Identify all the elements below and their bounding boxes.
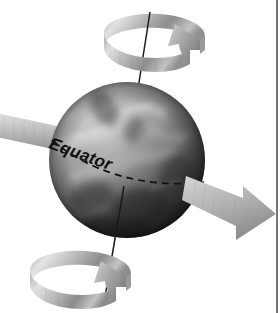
planet-rotation-figure: Equator (0, 0, 280, 313)
figure-canvas: Equator (0, 0, 280, 313)
